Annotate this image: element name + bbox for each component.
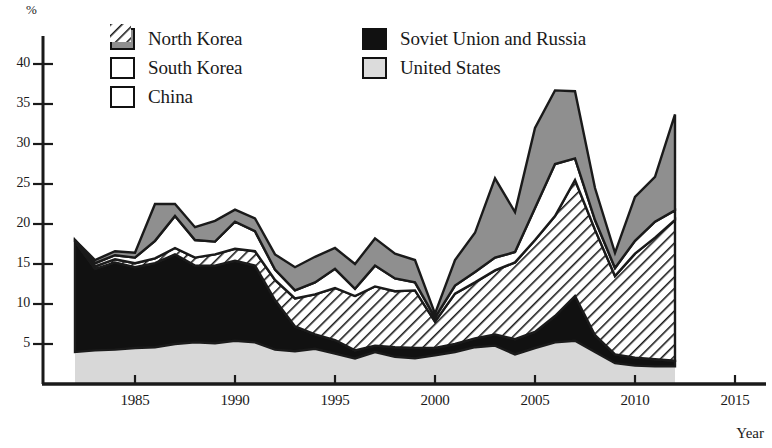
x-tick-label: 1985	[108, 392, 162, 409]
x-tick-label: 1990	[208, 392, 262, 409]
legend-swatch-hatch	[110, 86, 135, 108]
y-tick-label: 30	[0, 135, 30, 151]
legend-column-right: Soviet Union and RussiaUnited States	[362, 24, 586, 82]
legend-label: North Korea	[148, 28, 242, 50]
legend-column-left: North KoreaSouth KoreaChina	[110, 24, 242, 111]
y-tick-label: 35	[0, 95, 30, 111]
x-tick-label: 2005	[508, 392, 562, 409]
legend-swatch-solid-black	[362, 28, 387, 50]
x-tick-label: 2015	[708, 392, 762, 409]
y-tick-label: 5	[0, 335, 30, 351]
y-tick-label: 10	[0, 295, 30, 311]
y-tick-label: 25	[0, 175, 30, 191]
x-tick-label: 2010	[608, 392, 662, 409]
legend-item: China	[110, 82, 242, 111]
x-tick-label: 1995	[308, 392, 362, 409]
legend-swatch-white	[110, 57, 135, 79]
chart-figure: % 510152025303540 1985199019952000200520…	[0, 0, 772, 448]
legend-label: China	[148, 86, 193, 108]
legend-item: South Korea	[110, 53, 242, 82]
legend-item: Soviet Union and Russia	[362, 24, 586, 53]
legend-label: South Korea	[148, 57, 242, 79]
legend-label: Soviet Union and Russia	[400, 28, 586, 50]
legend-item: United States	[362, 53, 586, 82]
y-tick-label: 15	[0, 255, 30, 271]
y-tick-label: 40	[0, 55, 30, 71]
y-tick-label: 20	[0, 215, 30, 231]
legend-label: United States	[400, 57, 501, 79]
x-tick-label: 2000	[408, 392, 462, 409]
legend-swatch-solid-light	[362, 57, 387, 79]
x-axis-title: Year	[736, 425, 764, 442]
